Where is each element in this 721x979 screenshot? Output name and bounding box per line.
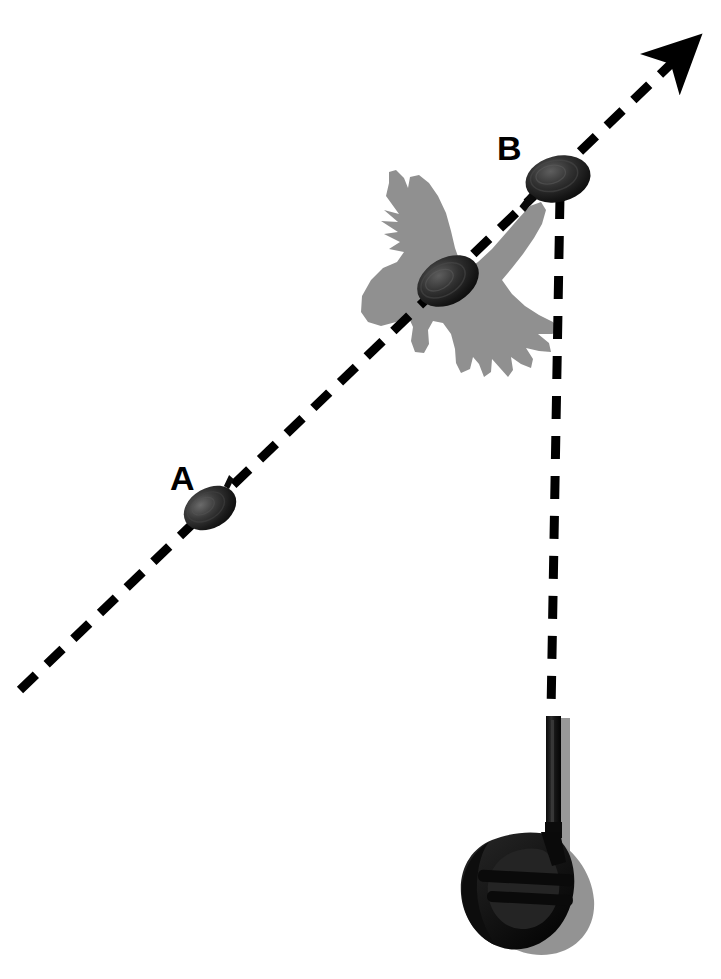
racquet [461,716,594,955]
vertical-reference-line [551,196,560,712]
label-point-a: A [170,459,195,497]
diagram-svg: A B [0,0,721,979]
figure-canvas: A B [0,0,721,979]
label-point-b: B [497,129,522,167]
projectile-b [510,149,596,213]
trajectory-line [20,61,674,690]
